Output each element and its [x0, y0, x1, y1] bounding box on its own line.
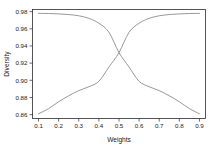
x-axis-tick-labels: 0.10.20.30.40.50.60.70.80.9	[34, 122, 204, 129]
x-tick-label: 0.7	[155, 122, 164, 129]
x-tick-label: 0.3	[74, 122, 83, 129]
y-tick-label: 0.94	[15, 42, 28, 49]
x-tick-label: 0.9	[195, 122, 204, 129]
diversity-vs-weights-line-chart: 0.860.880.900.920.940.960.98 0.10.20.30.…	[0, 0, 218, 148]
y-tick-label: 0.88	[15, 94, 28, 101]
x-tick-label: 0.8	[175, 122, 184, 129]
y-axis-title: Diversity	[3, 51, 11, 77]
chart-figure: 0.860.880.900.920.940.960.98 0.10.20.30.…	[0, 0, 218, 148]
x-tick-label: 0.2	[54, 122, 63, 129]
x-tick-label: 0.5	[115, 122, 124, 129]
y-tick-label: 0.90	[15, 77, 28, 84]
x-tick-label: 0.4	[95, 122, 104, 129]
y-tick-label: 0.96	[15, 25, 28, 32]
y-tick-label: 0.92	[15, 59, 28, 66]
x-tick-label: 0.1	[34, 122, 43, 129]
y-tick-label: 0.86	[15, 111, 28, 118]
x-tick-label: 0.6	[135, 122, 144, 129]
x-axis-title: Weights	[107, 136, 131, 144]
y-tick-label: 0.98	[15, 8, 28, 15]
